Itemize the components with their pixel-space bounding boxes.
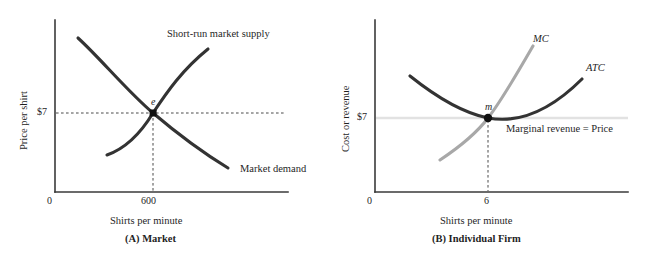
y-axis-label-a: Price per shirt (18, 91, 30, 150)
optimum-point-label: m (485, 101, 492, 113)
optimum-marker (484, 114, 492, 122)
atc-curve (410, 76, 582, 119)
panel-individual-firm: Cost or revenue $7 0 6 MC ATC Marginal r… (330, 0, 645, 255)
equilibrium-point-label: e (151, 96, 155, 108)
y-tick-label-a: $7 (37, 106, 47, 118)
marginal-revenue-label: Marginal revenue = Price (506, 123, 613, 135)
equilibrium-marker (150, 110, 157, 117)
x-axis-label-a: Shirts per minute (110, 215, 182, 227)
panel-b-caption: (B) Individual Firm (432, 233, 521, 245)
supply-curve (107, 49, 208, 155)
demand-curve-label: Market demand (240, 163, 306, 175)
panel-market: Price per shirt $7 0 600 Short-run marke… (0, 0, 330, 255)
x-axis-label-b: Shirts per minute (440, 215, 512, 227)
panel-a-caption: (A) Market (125, 233, 176, 245)
x-tick-label-b: 6 (484, 195, 489, 207)
supply-curve-label: Short-run market supply (167, 28, 270, 40)
origin-label-b: 0 (367, 195, 372, 207)
y-axis-label-b: Cost or revenue (340, 86, 352, 152)
mc-curve-label: MC (533, 33, 549, 45)
atc-curve-label: ATC (586, 62, 605, 74)
figure-container: Price per shirt $7 0 600 Short-run marke… (0, 0, 645, 255)
x-tick-label-a: 600 (141, 195, 156, 207)
origin-label-a: 0 (47, 195, 52, 207)
y-tick-label-b: $7 (357, 111, 367, 123)
